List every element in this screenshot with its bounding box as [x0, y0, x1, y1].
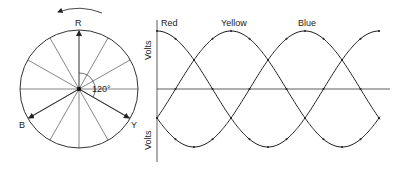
waveform-point: [267, 146, 269, 148]
label-y: Y: [131, 120, 137, 130]
rotation-arrow-icon: [58, 8, 102, 13]
waveform-point: [193, 146, 195, 148]
waveform-point: [249, 138, 251, 140]
phasor-center: [77, 87, 81, 91]
waveform-point: [341, 59, 343, 61]
waveform-point: [323, 38, 325, 40]
phasor-b: [29, 89, 79, 118]
curve-label-yellow: Yellow: [221, 18, 247, 28]
waveform-point: [193, 59, 195, 61]
waveform-point: [249, 38, 251, 40]
waveform-point: [286, 38, 288, 40]
waveform-point: [156, 30, 158, 32]
waveform-point: [230, 117, 232, 119]
waveform-point: [212, 38, 214, 40]
three-phase-diagram: R Y B 120° Volts Volts Red Yellow Blue: [0, 0, 408, 169]
waveform-point: [212, 138, 214, 140]
waveform-point: [267, 59, 269, 61]
waveform-point: [360, 138, 362, 140]
waveform-point: [249, 88, 251, 90]
waveform-point: [304, 117, 306, 119]
waveform-point: [360, 38, 362, 40]
waveform-point: [286, 138, 288, 140]
waveform-point: [212, 88, 214, 90]
waveform-point: [175, 88, 177, 90]
phasor-diagram: [20, 8, 138, 148]
curve-label-blue: Blue: [298, 18, 316, 28]
waveform-point: [230, 30, 232, 32]
angle-label: 120°: [92, 84, 111, 94]
curve-label-red: Red: [161, 18, 178, 28]
waveform-point: [175, 38, 177, 40]
waveform-point: [323, 138, 325, 140]
waveform-point: [323, 88, 325, 90]
label-r: R: [75, 18, 82, 28]
waveform-point: [360, 88, 362, 90]
waveform-point: [341, 146, 343, 148]
waveform-axes: [157, 20, 390, 162]
waveform-point: [378, 117, 380, 119]
waveform-point: [156, 117, 158, 119]
volts-label-bottom: Volts: [143, 130, 153, 150]
label-b: B: [19, 120, 25, 130]
waveform-point: [286, 88, 288, 90]
waveform-point: [175, 138, 177, 140]
waveform-point: [378, 30, 380, 32]
volts-label-top: Volts: [143, 40, 153, 60]
waveform-point: [304, 30, 306, 32]
